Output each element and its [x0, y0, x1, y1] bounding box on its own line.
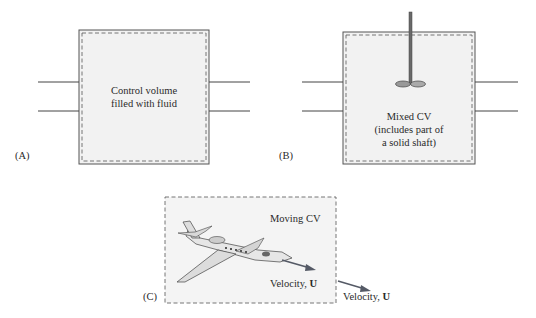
panel-c-title: Moving CV [270, 213, 320, 224]
panel-a-label: (A) [15, 150, 30, 161]
panel-b-text-line1: Mixed CV [343, 110, 475, 123]
inner-velocity-symbol: U [310, 278, 318, 289]
outer-velocity-prefix: Velocity, [343, 291, 383, 302]
inner-velocity-prefix: Velocity, [270, 278, 310, 289]
panel-a-text-line1: Control volume [79, 84, 209, 97]
panel-c-label: (C) [143, 291, 157, 302]
diagram-canvas [0, 0, 536, 318]
panel-c-outer-velocity: Velocity, U [343, 291, 390, 302]
panel-b-label: (B) [279, 150, 293, 161]
panel-a-description: Control volume filled with fluid [79, 84, 209, 110]
outer-velocity-symbol: U [383, 291, 391, 302]
panel-b-description: Mixed CV (includes part of a solid shaft… [343, 110, 475, 149]
panel-b-text-line2: (includes part of [343, 123, 475, 136]
panel-c-inner-velocity: Velocity, U [270, 278, 317, 289]
panel-b-text-line3: a solid shaft) [343, 136, 475, 149]
panel-a-text-line2: filled with fluid [79, 97, 209, 110]
